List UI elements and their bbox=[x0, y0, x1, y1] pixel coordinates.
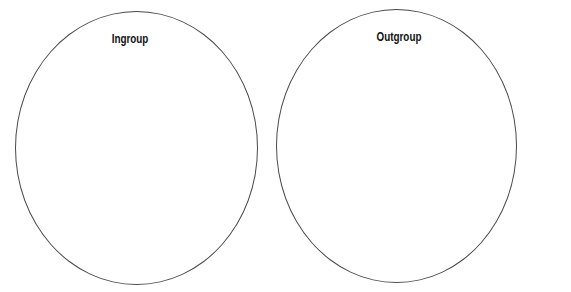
outgroup-label: Outgroup bbox=[358, 30, 440, 44]
ingroup-outgroup-diagram: Ingroup Outgroup bbox=[0, 0, 571, 292]
outgroup-circle bbox=[276, 9, 517, 283]
ingroup-label: Ingroup bbox=[89, 32, 171, 46]
ingroup-circle bbox=[15, 11, 258, 285]
